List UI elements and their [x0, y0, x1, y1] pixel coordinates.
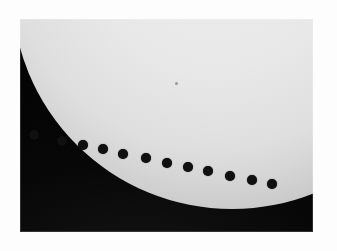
transit-silhouette [57, 136, 67, 146]
photograph [20, 19, 313, 232]
transit-silhouette [78, 140, 88, 150]
transit-silhouette [29, 130, 39, 140]
sunspot [175, 82, 178, 85]
transit-silhouette [225, 171, 235, 181]
transit-silhouette [203, 166, 213, 176]
transit-silhouette [141, 153, 151, 163]
transit-silhouette [247, 175, 257, 185]
transit-silhouette [183, 162, 193, 172]
transit-silhouette [267, 179, 277, 189]
page-root [0, 0, 337, 251]
transit-silhouette [98, 144, 108, 154]
transit-silhouette [162, 158, 172, 168]
transit-silhouette [118, 149, 128, 159]
